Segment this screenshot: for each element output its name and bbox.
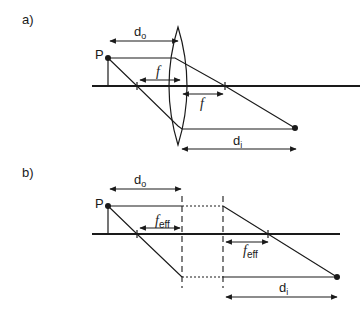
image-point: [292, 125, 298, 131]
lens-diagram: a) P do f f di b): [0, 0, 360, 321]
image-distance-label: di: [279, 280, 288, 297]
image-distance-label: di: [233, 133, 242, 150]
focal-length-label-back: f: [200, 96, 206, 111]
panel-a-label: a): [22, 12, 34, 27]
effective-focal-label-back: feff: [243, 243, 258, 260]
object-distance-label: do: [134, 172, 146, 189]
panel-b-label: b): [22, 165, 34, 180]
effective-focal-label-front: feff: [155, 213, 170, 230]
panel-b: b) P do feff feff di: [22, 165, 340, 297]
image-point: [334, 274, 340, 280]
parallel-ray: [108, 58, 295, 128]
focal-ray-in: [108, 206, 182, 277]
object-distance-label: do: [134, 24, 146, 41]
object-label: P: [95, 47, 104, 62]
object-label: P: [95, 196, 104, 211]
focal-length-label-front: f: [156, 64, 162, 79]
panel-a: a) P do f f di: [22, 12, 360, 150]
